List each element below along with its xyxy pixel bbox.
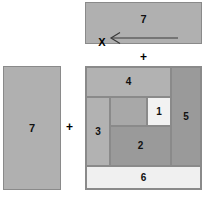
top-rectangle-label: 7 bbox=[140, 14, 146, 25]
piece-unlabelled bbox=[110, 97, 147, 126]
plus-operator-top: + bbox=[140, 51, 147, 63]
diagram-canvas: 7 X + 7 + 4 5 3 1 2 6 bbox=[0, 0, 206, 198]
piece-6-label: 6 bbox=[141, 173, 147, 183]
piece-4-label: 4 bbox=[126, 77, 132, 87]
piece-6: 6 bbox=[86, 166, 201, 189]
piece-2: 2 bbox=[110, 126, 171, 166]
piece-2-label: 2 bbox=[138, 141, 144, 151]
left-rectangle-label: 7 bbox=[29, 123, 35, 134]
piece-4: 4 bbox=[86, 67, 171, 97]
piece-3: 3 bbox=[86, 97, 110, 166]
piece-5-label: 5 bbox=[183, 112, 189, 122]
piece-1: 1 bbox=[147, 97, 171, 126]
left-rectangle-7: 7 bbox=[3, 66, 61, 190]
plus-operator-middle: + bbox=[66, 121, 73, 133]
piece-1-label: 1 bbox=[156, 107, 162, 117]
left-arrow-icon bbox=[106, 31, 180, 45]
piece-3-label: 3 bbox=[95, 127, 101, 137]
piece-5: 5 bbox=[171, 67, 201, 166]
composite-square: 4 5 3 1 2 6 bbox=[85, 66, 202, 190]
